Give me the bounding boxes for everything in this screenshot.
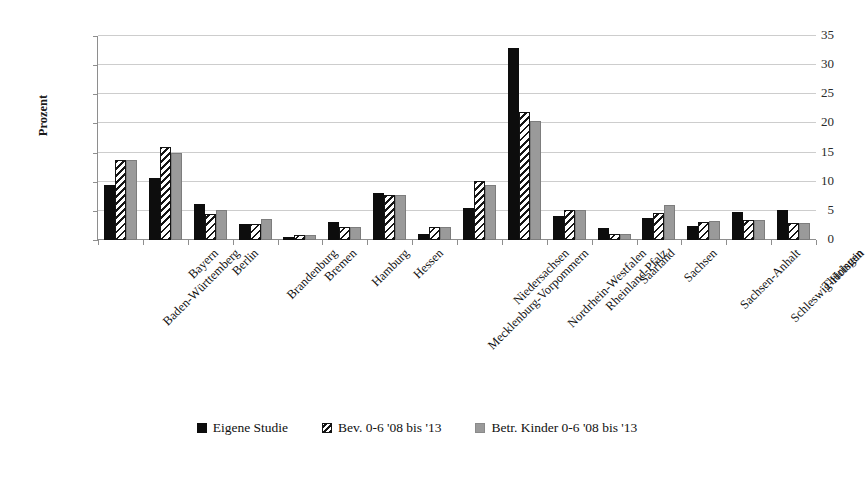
bar-group xyxy=(143,36,188,240)
bar-groups xyxy=(98,36,816,240)
bar-group xyxy=(592,36,637,240)
bar xyxy=(261,219,272,240)
x-tick xyxy=(457,240,458,245)
bar xyxy=(732,212,743,240)
bar xyxy=(474,181,485,240)
bar xyxy=(395,195,406,240)
x-tick-label: Mecklenburg-Vorpommern xyxy=(484,246,591,353)
legend-item[interactable]: Betr. Kinder 0-6 '08 bis '13 xyxy=(475,420,637,436)
bar xyxy=(384,195,395,240)
bar xyxy=(653,213,664,240)
bar xyxy=(373,193,384,240)
bar xyxy=(171,153,182,240)
y-tick-label-20: 20 xyxy=(746,114,834,130)
x-tick xyxy=(278,240,279,245)
bar xyxy=(698,222,709,240)
y-tick-label-35: 35 xyxy=(746,27,834,43)
y-tick-mark-5 xyxy=(93,211,98,212)
bar xyxy=(328,222,339,240)
bar xyxy=(194,204,205,240)
x-tick xyxy=(322,240,323,245)
x-tick xyxy=(681,240,682,245)
x-tick xyxy=(592,240,593,245)
bar-group xyxy=(412,36,457,240)
bar xyxy=(519,112,530,240)
bar xyxy=(104,185,115,240)
bar xyxy=(575,210,586,240)
bar xyxy=(205,214,216,240)
x-tick-label: Hessen xyxy=(410,246,446,282)
bar-group xyxy=(322,36,367,240)
x-tick-label: Thüringen xyxy=(819,246,866,293)
x-tick xyxy=(98,240,99,245)
y-tick-mark-20 xyxy=(93,123,98,124)
x-tick xyxy=(188,240,189,245)
bar xyxy=(553,216,564,240)
bar xyxy=(440,227,451,240)
x-tick-label: Sachsen xyxy=(681,246,721,286)
legend-item[interactable]: Bev. 0-6 '08 bis '13 xyxy=(322,420,441,436)
bar xyxy=(239,224,250,240)
bar xyxy=(709,221,720,240)
y-axis-title: Prozent xyxy=(36,81,51,151)
bar xyxy=(485,185,496,240)
legend-label: Eigene Studie xyxy=(213,420,288,436)
y-tick-label-25: 25 xyxy=(746,85,834,101)
bar-group xyxy=(367,36,412,240)
bar-group xyxy=(681,36,726,240)
bar-group xyxy=(278,36,323,240)
legend-swatch-icon xyxy=(322,423,332,433)
x-tick xyxy=(412,240,413,245)
y-tick-mark-25 xyxy=(93,94,98,95)
bar xyxy=(350,227,361,240)
bar xyxy=(160,147,171,240)
bar xyxy=(339,227,350,240)
chart-legend: Eigene StudieBev. 0-6 '08 bis '13Betr. K… xyxy=(0,420,834,436)
bar-group xyxy=(98,36,143,240)
x-tick xyxy=(143,240,144,245)
y-tick-mark-15 xyxy=(93,153,98,154)
y-tick-mark-10 xyxy=(93,182,98,183)
legend-swatch-icon xyxy=(197,423,207,433)
bar xyxy=(642,218,653,240)
bar-group xyxy=(233,36,278,240)
bar xyxy=(598,228,609,240)
bar-group xyxy=(547,36,592,240)
bar xyxy=(463,208,474,240)
legend-swatch-icon xyxy=(475,423,485,433)
x-tick xyxy=(771,240,772,245)
x-axis-tick-labels: Baden-WürttembergBayernBerlinBrandenburg… xyxy=(98,246,816,386)
x-tick xyxy=(502,240,503,245)
bar xyxy=(429,227,440,240)
x-tick-label: Hamburg xyxy=(369,246,413,290)
x-axis-tick-marks xyxy=(98,240,816,245)
bar-group xyxy=(502,36,547,240)
x-tick xyxy=(637,240,638,245)
plot-area xyxy=(98,36,816,240)
x-tick xyxy=(726,240,727,245)
y-tick-label-10: 10 xyxy=(746,173,834,189)
y-tick-mark-35 xyxy=(93,36,98,37)
y-tick-mark-30 xyxy=(93,65,98,66)
bar xyxy=(250,224,261,240)
bar xyxy=(149,178,160,240)
bar xyxy=(687,226,698,240)
bar xyxy=(530,121,541,240)
x-tick xyxy=(367,240,368,245)
legend-label: Betr. Kinder 0-6 '08 bis '13 xyxy=(491,420,637,436)
bar xyxy=(664,205,675,240)
x-tick xyxy=(233,240,234,245)
bar xyxy=(564,210,575,240)
x-tick xyxy=(547,240,548,245)
bar-group xyxy=(188,36,233,240)
bar xyxy=(126,160,137,240)
bar xyxy=(508,48,519,240)
legend-item[interactable]: Eigene Studie xyxy=(197,420,288,436)
y-tick-label-5: 5 xyxy=(746,202,834,218)
x-tick xyxy=(816,240,817,245)
bar-group xyxy=(457,36,502,240)
bar xyxy=(216,210,227,240)
legend-label: Bev. 0-6 '08 bis '13 xyxy=(338,420,441,436)
y-tick-label-15: 15 xyxy=(746,144,834,160)
cut-off-title xyxy=(150,0,570,5)
